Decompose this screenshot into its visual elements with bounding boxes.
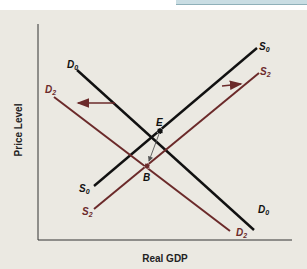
curve-d2 xyxy=(54,97,230,231)
supply-shift-arrow xyxy=(222,84,241,86)
label-b: B xyxy=(143,172,150,183)
label-e: E xyxy=(156,117,163,128)
label-s2-bottom: S2 xyxy=(82,206,93,218)
curve-s2 xyxy=(94,73,259,209)
label-s0-top: S0 xyxy=(259,41,270,53)
label-d2-bottom: D2 xyxy=(236,227,247,239)
label-s0-bottom: S0 xyxy=(79,183,90,195)
y-axis-title: Price Level xyxy=(13,103,24,156)
curve-s0 xyxy=(94,48,257,186)
label-d2-top: D2 xyxy=(45,84,56,96)
label-d0-bottom: D0 xyxy=(258,204,269,216)
label-s2-top: S2 xyxy=(260,66,271,78)
point-b xyxy=(144,163,150,169)
chart-svg: D0 S0 D2 S2 S0 S2 D0 D2 E B Real GDP Pri… xyxy=(0,0,307,269)
label-d0: D0 xyxy=(67,59,78,71)
x-axis-title: Real GDP xyxy=(142,253,188,264)
point-e xyxy=(157,128,163,134)
